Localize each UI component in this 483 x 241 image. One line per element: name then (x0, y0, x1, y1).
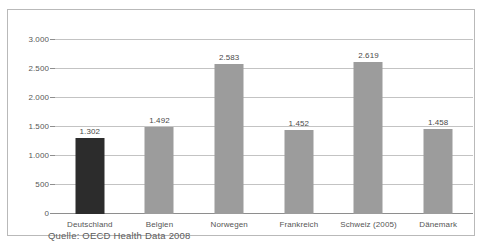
category-label-frankreich: Frankreich (279, 220, 318, 229)
bar-deutschland[interactable] (75, 138, 104, 214)
ytick-label-500: 500 (35, 180, 49, 189)
bar-slot-belgien: 1.492 Belgien (125, 40, 195, 214)
chart-frame: 3.000 2.500 2.000 1.500 1.000 500 (7, 9, 475, 236)
bar-value-norwegen: 2.583 (219, 53, 240, 62)
category-label-daenemark: Dänemark (419, 220, 457, 229)
category-label-belgien: Belgien (146, 220, 173, 229)
bar-daenemark[interactable] (424, 129, 453, 214)
ytick-label-3000: 3.000 (28, 35, 49, 44)
ytick-label-1000: 1.000 (28, 151, 49, 160)
category-label-norwegen: Norwegen (211, 220, 248, 229)
category-label-deutschland: Deutschland (67, 220, 113, 229)
bar-slot-norwegen: 2.583 Norwegen (194, 40, 264, 214)
bar-slot-daenemark: 1.458 Dänemark (403, 40, 473, 214)
bar-group: 1.302 Deutschland 1.492 Belgien 2.583 No… (55, 40, 473, 214)
bar-value-belgien: 1.492 (149, 116, 170, 125)
ytick-label-2500: 2.500 (28, 64, 49, 73)
bar-slot-schweiz: 2.619 Schweiz (2005) (334, 40, 404, 214)
ytick-label-1500: 1.500 (28, 122, 49, 131)
source-note: Quelle: OECD Health Data 2008 (48, 230, 191, 241)
ytick-label-2000: 2.000 (28, 93, 49, 102)
bar-value-daenemark: 1.458 (428, 118, 449, 127)
bar-frankreich[interactable] (284, 130, 313, 214)
bar-schweiz[interactable] (354, 62, 383, 214)
bar-value-frankreich: 1.452 (289, 119, 310, 128)
bar-slot-frankreich: 1.452 Frankreich (264, 40, 334, 214)
category-label-schweiz: Schweiz (2005) (340, 220, 397, 229)
bar-belgien[interactable] (145, 127, 174, 214)
bar-value-schweiz: 2.619 (358, 51, 379, 60)
ytick-label-0: 0 (44, 209, 49, 218)
bar-slot-deutschland: 1.302 Deutschland (55, 40, 125, 214)
plot-area: 3.000 2.500 2.000 1.500 1.000 500 (55, 40, 473, 214)
bar-value-deutschland: 1.302 (80, 127, 101, 136)
bar-norwegen[interactable] (215, 64, 244, 214)
